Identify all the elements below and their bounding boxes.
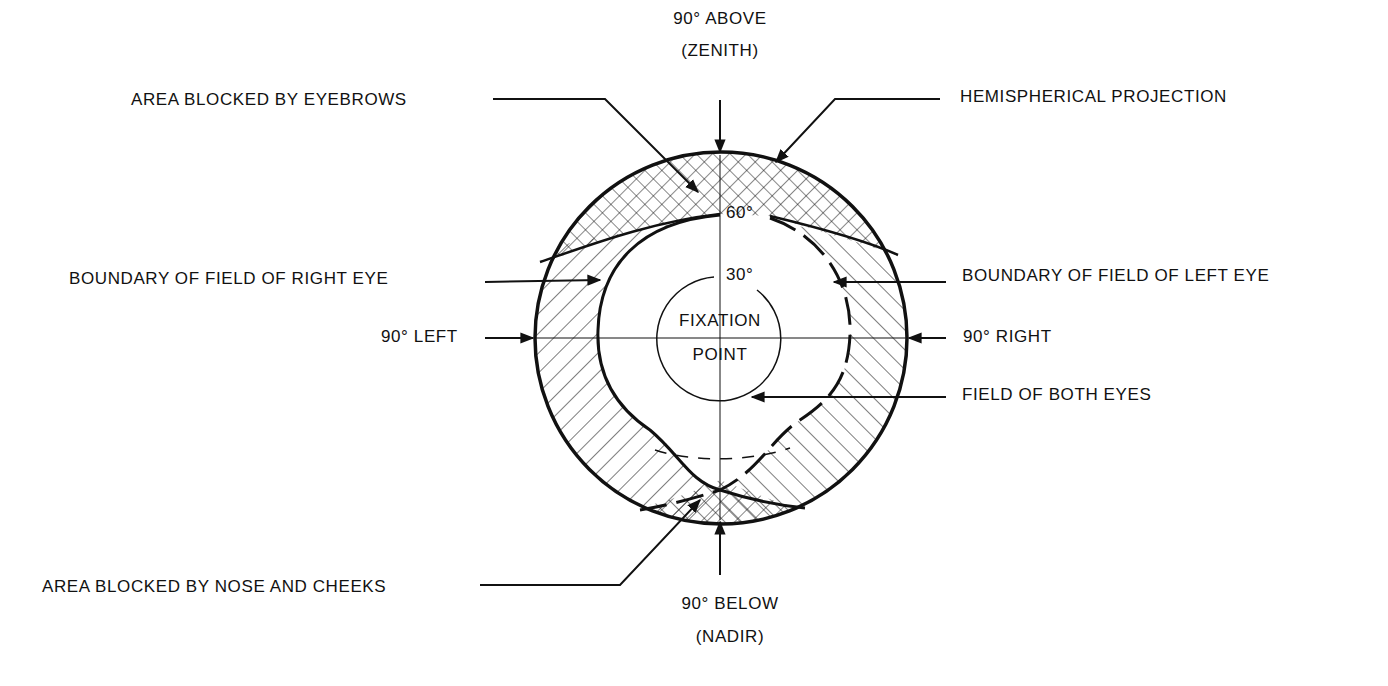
fixation-label: FIXATION xyxy=(660,312,780,329)
nadir-sublabel: (NADIR) xyxy=(650,628,810,645)
nadir-label: 90° BELOW xyxy=(650,595,810,612)
hemispherical-projection-label: HEMISPHERICAL PROJECTION xyxy=(960,88,1227,105)
left-eye-boundary-label: BOUNDARY OF FIELD OF LEFT EYE xyxy=(962,267,1269,284)
sixty-degree-label: 60° xyxy=(726,204,754,221)
left-eye-only-region xyxy=(720,218,907,524)
thirty-degree-label: 30° xyxy=(726,266,754,283)
right-eye-only-region xyxy=(535,215,720,524)
right-90-label: 90° RIGHT xyxy=(963,328,1052,345)
eyebrows-label: AREA BLOCKED BY EYEBROWS xyxy=(131,91,407,108)
right-eye-boundary-label: BOUNDARY OF FIELD OF RIGHT EYE xyxy=(69,270,388,287)
fixation-circle xyxy=(657,277,781,401)
nose-cheeks-label: AREA BLOCKED BY NOSE AND CHEEKS xyxy=(42,578,386,595)
zenith-sublabel: (ZENITH) xyxy=(650,42,790,59)
left-90-label: 90° LEFT xyxy=(381,328,458,345)
both-eyes-label: FIELD OF BOTH EYES xyxy=(962,386,1151,403)
zenith-label: 90° ABOVE xyxy=(650,10,790,27)
point-label: POINT xyxy=(660,346,780,363)
